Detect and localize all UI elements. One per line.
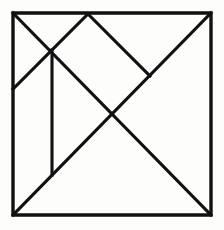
tangram-canvas [0, 0, 224, 230]
tangram-figure [0, 0, 224, 230]
